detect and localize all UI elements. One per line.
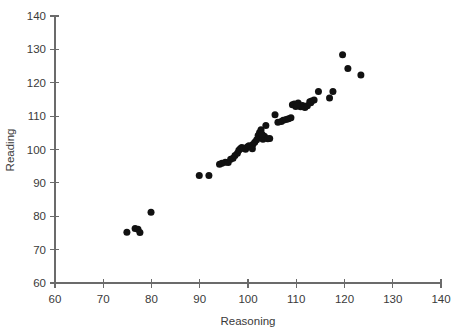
data-point	[272, 111, 279, 118]
data-point	[339, 51, 346, 58]
data-point	[315, 88, 322, 95]
y-axis: 60708090100110120130140	[27, 10, 59, 289]
y-axis-ticks: 60708090100110120130140	[27, 10, 59, 289]
x-tick-label: 120	[335, 293, 354, 305]
x-tick-label: 80	[145, 293, 158, 305]
data-point	[148, 209, 155, 216]
y-tick-label: 140	[27, 10, 46, 22]
y-tick-label: 80	[33, 210, 46, 222]
x-tick-label: 130	[383, 293, 402, 305]
y-tick-label: 120	[27, 77, 46, 89]
y-tick-label: 110	[28, 110, 46, 122]
x-tick-label: 60	[49, 293, 62, 305]
data-point	[293, 102, 300, 109]
data-points-layer	[123, 51, 364, 236]
x-tick-label: 70	[97, 293, 110, 305]
y-tick-label: 70	[33, 244, 46, 256]
y-tick-label: 60	[33, 277, 46, 289]
scatter-plot-figure: 60708090100110120130140 6070809010011012…	[0, 0, 465, 332]
data-point	[307, 99, 314, 106]
data-point	[326, 95, 333, 102]
x-axis-title: Reasoning	[221, 315, 276, 327]
x-tick-label: 110	[287, 293, 305, 305]
x-tick-label: 90	[193, 293, 206, 305]
data-point	[329, 88, 336, 95]
data-point	[357, 72, 364, 79]
data-point	[258, 131, 265, 138]
data-point	[344, 65, 351, 72]
y-axis-title: Reading	[4, 129, 16, 172]
data-point	[123, 229, 130, 236]
data-point	[249, 145, 256, 152]
y-tick-label: 90	[33, 177, 46, 189]
data-point	[136, 229, 143, 236]
x-tick-label: 140	[431, 293, 450, 305]
data-point	[196, 172, 203, 179]
x-tick-label: 100	[238, 293, 257, 305]
data-point	[266, 135, 273, 142]
chart-canvas: 60708090100110120130140 6070809010011012…	[0, 0, 465, 332]
data-point	[205, 172, 212, 179]
y-tick-label: 100	[27, 144, 46, 156]
data-point	[262, 122, 269, 129]
y-tick-label: 130	[27, 43, 46, 55]
data-point	[274, 119, 281, 126]
x-axis: 60708090100110120130140	[49, 279, 451, 305]
data-point	[287, 114, 294, 121]
